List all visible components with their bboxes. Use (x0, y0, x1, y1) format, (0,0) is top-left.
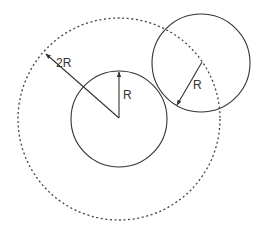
circle-geometry-diagram: 2R R R (0, 0, 259, 235)
inner-radius-label: R (123, 88, 132, 102)
outer-dotted-circle (18, 18, 220, 220)
outer-radius-label: 2R (56, 56, 72, 70)
moving-radius-label: R (193, 78, 202, 92)
